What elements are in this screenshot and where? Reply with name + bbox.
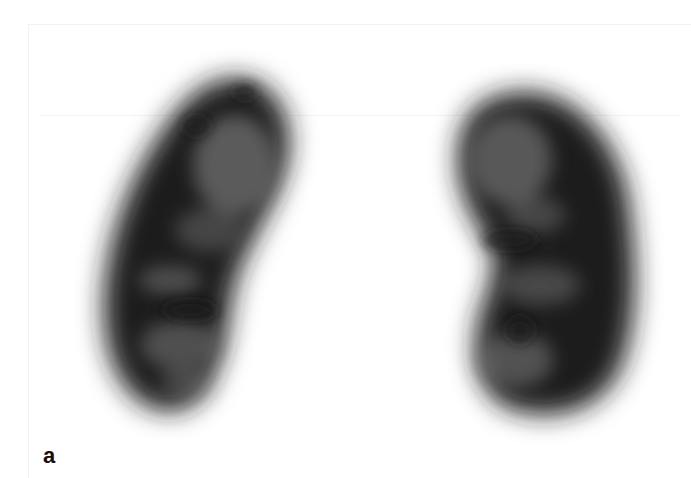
renal-scintigraphy-image bbox=[0, 0, 691, 478]
panel-label: a bbox=[43, 445, 55, 467]
